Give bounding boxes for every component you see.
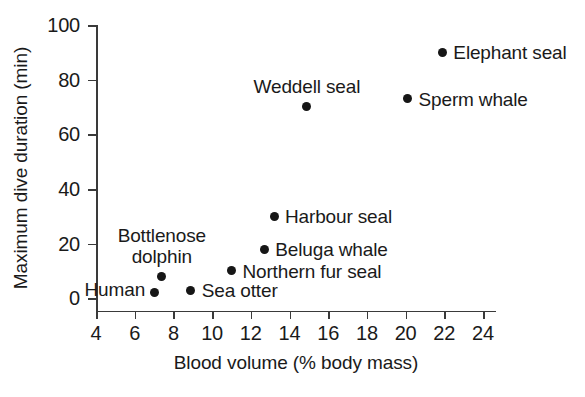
x-tick-6: [135, 311, 137, 319]
x-tick-10: [212, 311, 214, 319]
y-tick-label-80: 80: [58, 68, 80, 91]
y-tick-label-0: 0: [69, 287, 80, 310]
y-tick-80: [88, 80, 96, 82]
data-point-elephant-seal: [438, 48, 447, 57]
x-tick-22: [444, 311, 446, 319]
data-point-sperm-whale: [403, 94, 412, 103]
y-axis-title: Maximum dive duration (min): [10, 47, 32, 289]
x-tick-label-6: 6: [129, 322, 140, 345]
point-label-sea-otter: Sea otter: [202, 281, 278, 302]
x-tick-label-16: 16: [317, 322, 339, 345]
x-tick-label-12: 12: [240, 322, 262, 345]
y-tick-100: [88, 25, 96, 27]
y-tick-label-100: 100: [47, 14, 80, 37]
point-label-northern-fur-seal: Northern fur seal: [242, 262, 381, 283]
x-tick-label-4: 4: [91, 322, 102, 345]
y-tick-label-40: 40: [58, 177, 80, 200]
point-label-weddell-seal: Weddell seal: [254, 77, 361, 98]
x-tick-14: [290, 311, 292, 319]
x-tick-label-14: 14: [279, 322, 301, 345]
y-tick-20: [88, 244, 96, 246]
y-tick-40: [88, 189, 96, 191]
x-tick-label-20: 20: [395, 322, 417, 345]
point-label-beluga-whale: Beluga whale: [275, 240, 387, 261]
x-axis-line: [96, 311, 496, 313]
data-point-human: [150, 288, 159, 297]
x-tick-12: [251, 311, 253, 319]
x-tick-label-8: 8: [168, 322, 179, 345]
x-tick-4: [96, 311, 98, 319]
x-tick-16: [328, 311, 330, 319]
x-tick-8: [173, 311, 175, 319]
y-tick-label-60: 60: [58, 123, 80, 146]
x-tick-label-10: 10: [201, 322, 223, 345]
data-point-sea-otter: [186, 286, 195, 295]
point-label-elephant-seal: Elephant seal: [453, 43, 566, 64]
y-tick-label-20: 20: [58, 232, 80, 255]
point-label-sperm-whale: Sperm whale: [419, 90, 528, 111]
point-label-bottlenose-dolphin: Bottlenosedolphin: [118, 226, 206, 267]
data-point-harbour-seal: [270, 212, 279, 221]
x-tick-label-18: 18: [356, 322, 378, 345]
x-tick-label-22: 22: [433, 322, 455, 345]
scatter-plot-figure: 020406080100 4681012141618202224 HumanBo…: [0, 0, 585, 397]
data-point-beluga-whale: [260, 245, 269, 254]
y-tick-60: [88, 134, 96, 136]
x-tick-24: [483, 311, 485, 319]
x-tick-20: [406, 311, 408, 319]
data-point-weddell-seal: [302, 102, 311, 111]
data-point-northern-fur-seal: [227, 266, 236, 275]
data-point-bottlenose-dolphin: [157, 272, 166, 281]
point-label-human: Human: [85, 280, 146, 301]
point-label-harbour-seal: Harbour seal: [285, 207, 392, 228]
y-axis-line: [96, 25, 98, 312]
x-tick-label-24: 24: [472, 322, 494, 345]
x-tick-18: [367, 311, 369, 319]
x-axis-title: Blood volume (% body mass): [174, 352, 419, 374]
